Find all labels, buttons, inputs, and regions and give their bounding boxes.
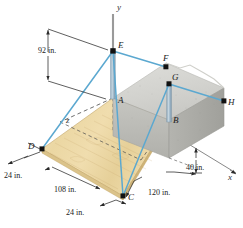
point-label-C: C <box>128 193 134 202</box>
statics-figure: y x z A B C D E F G H 92 in. 24 in. 108 … <box>0 0 243 228</box>
point-label-D: D <box>28 142 35 151</box>
point-label-F: F <box>163 54 169 63</box>
dot-D <box>40 146 45 151</box>
dimension-plank-offset-bottom: 24 in. <box>66 209 84 217</box>
dim-108-arrow-left <box>45 168 50 170</box>
dot-C <box>121 193 126 198</box>
dim-24-bottom-b <box>116 200 126 204</box>
leader-92-top <box>48 29 108 50</box>
cable-EF <box>113 51 166 67</box>
dimension-block-height: 40 in. <box>186 164 204 172</box>
dot-F <box>163 64 168 69</box>
point-label-H: H <box>228 98 235 107</box>
dimension-block-length: 120 in. <box>148 189 170 197</box>
dimension-post-height: 92 in. <box>38 47 56 55</box>
dot-H <box>221 98 226 103</box>
dim-24-left <box>8 156 28 164</box>
dim-24-bottom <box>100 200 116 206</box>
leader-92-bottom <box>48 81 106 99</box>
point-label-B: B <box>173 116 179 125</box>
point-label-E: E <box>118 41 124 50</box>
axis-label-z: z <box>66 116 70 125</box>
dimension-plank-offset-left: 24 in. <box>4 172 22 180</box>
post-GB <box>167 84 172 122</box>
figure-canvas <box>0 0 243 228</box>
dot-E <box>110 48 115 53</box>
axis-label-x: x <box>228 173 232 182</box>
point-label-A: A <box>118 96 124 105</box>
point-label-G: G <box>172 73 179 82</box>
axis-label-y: y <box>117 3 121 12</box>
leader-24-left-b <box>24 152 40 158</box>
dimension-plank-length: 108 in. <box>54 186 76 194</box>
dot-G <box>167 81 172 86</box>
